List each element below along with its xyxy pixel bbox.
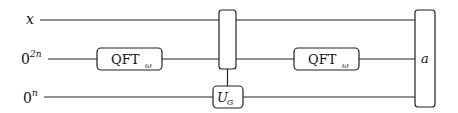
wire-label-0-n: 0 n: [23, 88, 38, 106]
control-block: [219, 10, 236, 69]
qft-gate-1: QFT ω: [97, 48, 162, 70]
quantum-circuit: x 0 2n 0 n QFT ω U G QFT ω a: [0, 0, 458, 113]
wire-label-x: x: [26, 11, 34, 27]
svg-text:QFT: QFT: [308, 52, 337, 67]
qft-gate-2: QFT ω: [294, 48, 359, 70]
svg-text:G: G: [227, 98, 234, 107]
svg-text:0: 0: [23, 90, 32, 106]
output-block-a: a: [415, 10, 435, 107]
svg-text:a: a: [421, 51, 429, 66]
svg-text:QFT: QFT: [111, 52, 140, 67]
svg-text:2n: 2n: [29, 49, 42, 59]
svg-text:ω: ω: [342, 61, 349, 70]
svg-text:ω: ω: [145, 61, 152, 70]
svg-text:0: 0: [21, 51, 30, 67]
svg-text:n: n: [32, 88, 38, 98]
wire-label-0-2n: 0 2n: [21, 49, 42, 67]
ug-gate: U G: [213, 86, 243, 108]
